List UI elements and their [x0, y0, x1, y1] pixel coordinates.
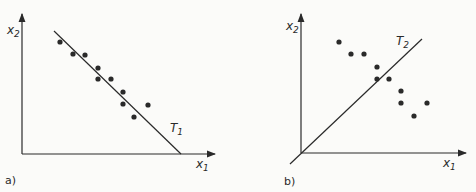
figure-canvas: x2 x1 T1 a) x2 x1 T2 b) [0, 0, 476, 192]
data-point [361, 51, 366, 56]
data-point [108, 76, 113, 81]
data-point [120, 101, 125, 106]
line-label-t1: T1 [170, 121, 183, 137]
data-point [374, 64, 379, 69]
panel-b: x2 x1 T2 b) [284, 14, 466, 188]
data-point [411, 113, 416, 118]
data-point [82, 52, 87, 57]
panel-label-a: a) [5, 174, 16, 187]
separating-line-t1 [54, 31, 181, 154]
panel-a: x2 x1 T1 a) [5, 14, 215, 187]
data-point [374, 76, 379, 81]
data-point [348, 51, 353, 56]
x-axis-label-b: x1 [442, 156, 456, 172]
data-point [95, 65, 100, 70]
data-point [95, 76, 100, 81]
line-label-t2: T2 [396, 34, 409, 50]
panel-label-b: b) [284, 175, 295, 188]
data-point [336, 39, 341, 44]
data-point [131, 114, 136, 119]
data-point [57, 39, 62, 44]
data-point [120, 89, 125, 94]
y-axis-label-a: x2 [6, 23, 20, 39]
y-axis-label-b: x2 [285, 19, 299, 35]
data-point [145, 102, 150, 107]
data-point [386, 76, 391, 81]
x-axis-label-a: x1 [195, 157, 209, 173]
data-point [398, 100, 403, 105]
data-point [70, 51, 75, 56]
data-point [424, 100, 429, 105]
data-point [398, 88, 403, 93]
